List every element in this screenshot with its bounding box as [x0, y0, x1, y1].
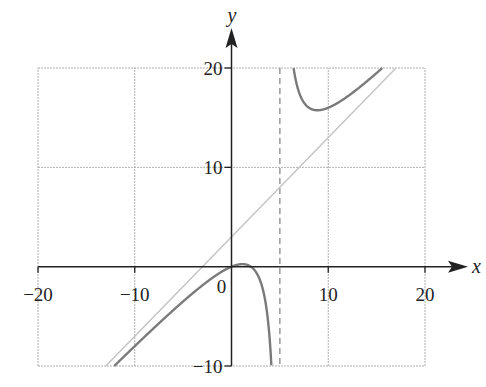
- axes: [38, 28, 468, 366]
- x-axis-label: x: [471, 255, 481, 277]
- origin-label: 0: [217, 276, 227, 297]
- x-tick-label: −20: [23, 284, 53, 305]
- x-tick-label: 10: [319, 284, 338, 305]
- y-axis-label: y: [226, 4, 237, 27]
- function-curve: [114, 68, 382, 366]
- y-tick-label: −10: [193, 356, 223, 377]
- labels: −20−101020−1010200xy: [23, 4, 481, 377]
- x-tick-label: −10: [120, 284, 150, 305]
- slant-asymptote-line: [106, 68, 396, 366]
- y-tick-label: 20: [204, 58, 223, 79]
- chart: −20−101020−1010200xy: [0, 0, 486, 387]
- y-tick-label: 10: [204, 157, 223, 178]
- x-tick-label: 20: [416, 284, 435, 305]
- curves: [106, 68, 396, 366]
